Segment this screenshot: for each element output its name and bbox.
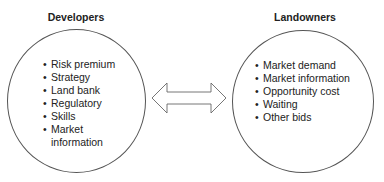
- list-item: •Market information: [255, 72, 350, 85]
- list-item: •Market demand: [255, 59, 350, 72]
- list-item: •Risk premium: [43, 58, 115, 71]
- list-item: •Regulatory: [43, 97, 115, 110]
- list-item: •Skills: [43, 110, 115, 123]
- list-item: •Other bids: [255, 111, 350, 124]
- developers-title: Developers: [6, 11, 146, 23]
- list-item: •Waiting: [255, 98, 350, 111]
- list-item: •Land bank: [43, 84, 115, 97]
- double-headed-arrow-icon: [150, 80, 230, 116]
- landowners-factor-list: •Market demand •Market information •Oppo…: [255, 59, 350, 124]
- landowners-title: Landowners: [235, 11, 375, 23]
- list-item: •Marketinformation: [43, 123, 115, 149]
- list-item: •Strategy: [43, 71, 115, 84]
- developers-factor-list: •Risk premium •Strategy •Land bank •Regu…: [43, 58, 115, 149]
- list-item: •Opportunity cost: [255, 85, 350, 98]
